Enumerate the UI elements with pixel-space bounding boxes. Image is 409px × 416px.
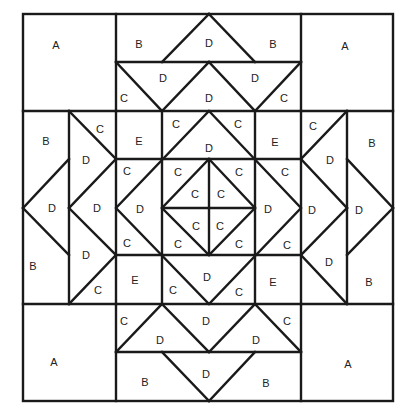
- piece-label-c: C: [172, 118, 180, 130]
- piece-label-c: C: [123, 165, 131, 177]
- piece-label-c: C: [216, 220, 224, 232]
- piece-label-c: C: [281, 166, 289, 178]
- piece-label-d: D: [136, 203, 144, 215]
- piece-label-c: C: [235, 238, 243, 250]
- piece-label-c: C: [235, 286, 243, 298]
- piece-label-b: B: [141, 376, 148, 388]
- piece-label-d: D: [82, 154, 90, 166]
- piece-label-d: D: [48, 202, 56, 214]
- piece-label-c: C: [309, 120, 317, 132]
- piece-label-c: C: [280, 92, 288, 104]
- piece-labels: ABDBADDCDCBCECCECBDDCCCCDCCDDDDDDCCCCCCD…: [29, 37, 375, 389]
- piece-label-d: D: [82, 249, 90, 261]
- piece-label-d: D: [156, 334, 164, 346]
- piece-label-a: A: [344, 358, 352, 370]
- piece-label-d: D: [202, 368, 210, 380]
- piece-label-d: D: [93, 202, 101, 214]
- piece-label-a: A: [341, 40, 349, 52]
- piece-label-c: C: [174, 238, 182, 250]
- piece-label-e: E: [271, 136, 278, 148]
- piece-label-c: C: [191, 188, 199, 200]
- piece-label-c: C: [234, 118, 242, 130]
- piece-label-c: C: [283, 239, 291, 251]
- piece-label-c: C: [174, 166, 182, 178]
- piece-label-d: D: [325, 256, 333, 268]
- piece-label-b: B: [262, 377, 269, 389]
- piece-label-d: D: [203, 271, 211, 283]
- piece-label-b: B: [42, 135, 49, 147]
- piece-label-d: D: [355, 204, 363, 216]
- piece-label-c: C: [217, 188, 225, 200]
- piece-label-e: E: [269, 276, 276, 288]
- piece-label-d: D: [326, 154, 334, 166]
- piece-label-c: C: [94, 284, 102, 296]
- piece-label-c: C: [96, 123, 104, 135]
- piece-label-c: C: [120, 315, 128, 327]
- piece-label-d: D: [202, 315, 210, 327]
- piece-label-d: D: [159, 72, 167, 84]
- piece-label-c: C: [169, 284, 177, 296]
- outline-lines: [23, 14, 393, 401]
- piece-label-e: E: [135, 135, 142, 147]
- quilt-block-diagram: ABDBADDCDCBCECCECBDDCCCCDCCDDDDDDCCCCCCD…: [0, 0, 409, 416]
- piece-label-d: D: [251, 72, 259, 84]
- piece-label-b: B: [269, 38, 276, 50]
- piece-label-d: D: [205, 92, 213, 104]
- piece-label-c: C: [192, 220, 200, 232]
- piece-label-b: B: [135, 38, 142, 50]
- piece-label-c: C: [123, 237, 131, 249]
- piece-label-b: B: [365, 276, 372, 288]
- piece-label-a: A: [52, 39, 60, 51]
- piece-label-d: D: [205, 142, 213, 154]
- piece-label-e: E: [131, 274, 138, 286]
- piece-label-b: B: [29, 260, 36, 272]
- piece-label-c: C: [283, 315, 291, 327]
- piece-label-d: D: [264, 203, 272, 215]
- piece-label-d: D: [252, 334, 260, 346]
- piece-label-c: C: [120, 92, 128, 104]
- piece-label-d: D: [308, 204, 316, 216]
- piece-label-c: C: [235, 166, 243, 178]
- piece-label-b: B: [368, 137, 375, 149]
- piece-label-a: A: [50, 356, 58, 368]
- piece-label-d: D: [205, 37, 213, 49]
